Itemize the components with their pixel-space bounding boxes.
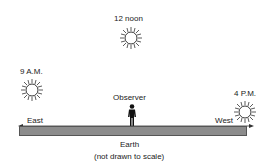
observer-label: Observer	[113, 93, 146, 102]
sun-icon-noon	[119, 26, 143, 50]
sun-label-noon: 12 noon	[114, 14, 143, 23]
sun-icon-9am	[20, 78, 44, 102]
earth-label: Earth	[120, 140, 139, 149]
sun-label-4pm: 4 P.M.	[234, 89, 256, 98]
earth-ground	[19, 126, 247, 136]
sun-icon-4pm	[233, 100, 257, 124]
sun-label-9am: 9 A.M.	[20, 67, 43, 76]
scale-note: (not drawn to scale)	[94, 152, 164, 161]
